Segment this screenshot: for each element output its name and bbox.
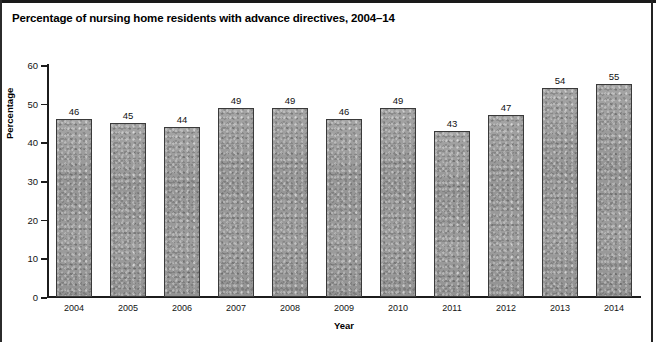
x-axis-tick-label: 2007 (226, 303, 246, 313)
bar-value-label: 46 (69, 106, 80, 117)
y-axis-tick-mark (41, 142, 47, 144)
y-axis-tick-mark (41, 104, 47, 106)
y-axis-tick-label: 50 (27, 98, 38, 109)
bar: 492010 (380, 108, 417, 297)
bar: 442006 (164, 127, 201, 297)
bar-value-label: 44 (177, 114, 188, 125)
bar: 462009 (326, 119, 363, 297)
x-axis-tick-label: 2009 (334, 303, 354, 313)
page-border-left (0, 0, 2, 342)
chart-title: Percentage of nursing home residents wit… (12, 12, 395, 24)
bar-value-label: 43 (447, 118, 458, 129)
bar-value-label: 46 (339, 106, 350, 117)
y-axis-tick-mark (41, 181, 47, 183)
x-axis-tick-label: 2011 (442, 303, 461, 313)
bar-value-label: 47 (501, 102, 512, 113)
bar: 472012 (488, 115, 525, 297)
y-axis-tick-label: 40 (27, 137, 38, 148)
bar-value-label: 49 (393, 95, 404, 106)
bar-value-label: 54 (555, 75, 566, 86)
figure-footnote (84, 334, 564, 342)
x-axis-tick-label: 2014 (604, 303, 624, 313)
bar-value-label: 49 (231, 95, 242, 106)
y-axis-tick-mark (41, 65, 47, 67)
bar-value-label: 55 (609, 71, 620, 82)
y-axis-tick-label: 20 (27, 214, 38, 225)
x-axis-tick-label: 2010 (388, 303, 408, 313)
figure-page: Percentage of nursing home residents wit… (0, 0, 659, 342)
x-axis-tick-label: 2008 (280, 303, 300, 313)
bar: 492008 (272, 108, 309, 297)
bar: 462004 (56, 119, 93, 297)
x-axis-title: Year (47, 320, 641, 331)
y-axis-tick-label: 10 (27, 253, 38, 264)
bar: 452005 (110, 123, 147, 297)
x-axis-tick-label: 2005 (118, 303, 138, 313)
y-axis-tick-mark (41, 220, 47, 222)
page-border-top (0, 0, 659, 3)
x-axis-tick-label: 2006 (172, 303, 192, 313)
y-axis-tick-label: 60 (27, 60, 38, 71)
bar-value-label: 45 (123, 110, 134, 121)
plot-area: 0102030405060 46200445200544200649200749… (47, 65, 641, 297)
y-axis-title: Percentage (4, 88, 15, 139)
bar-value-label: 49 (285, 95, 296, 106)
x-axis-tick-label: 2012 (496, 303, 516, 313)
x-axis-tick-label: 2013 (550, 303, 570, 313)
bar: 492007 (218, 108, 255, 297)
page-border-right (651, 0, 653, 342)
bar: 432011 (434, 131, 471, 297)
y-axis-tick-label: 0 (33, 292, 38, 303)
bar: 552014 (596, 84, 633, 297)
y-axis-tick-mark (41, 258, 47, 260)
y-axis-tick-label: 30 (27, 176, 38, 187)
y-axis-tick-mark (41, 297, 47, 299)
bar: 542013 (542, 88, 579, 297)
x-axis-tick-label: 2004 (64, 303, 84, 313)
